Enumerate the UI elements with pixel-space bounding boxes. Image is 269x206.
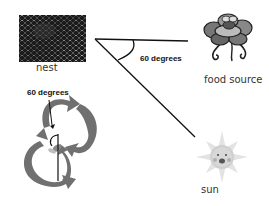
field-angle-label: 60 degrees [140,54,182,63]
diagram-canvas [0,0,269,206]
dance-angle-arc [50,135,58,146]
sun-icon [196,131,248,183]
pointer-arrowhead [50,124,55,129]
waggle-dance-arrows [24,95,97,189]
flower-icon [204,14,252,61]
dance-angle-label: 60 degrees [27,88,69,97]
sun-label: sun [201,184,219,195]
field-angle-arc [118,40,134,60]
nest-to-food-line [95,39,188,41]
food-source-label: food source [204,74,263,85]
